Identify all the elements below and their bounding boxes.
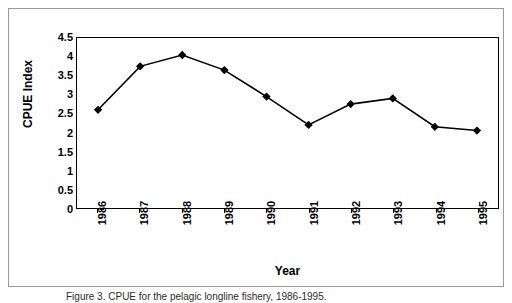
y-axis-tick-labels: 00.511.522.533.544.5 — [37, 29, 73, 217]
x-tick-label: 1995 — [478, 190, 489, 236]
x-axis-tick-labels: 1986198719881989199019911992199319941995 — [76, 213, 499, 259]
y-tick-label: 4.5 — [58, 32, 73, 43]
x-axis-title: Year — [76, 264, 499, 278]
y-tick-label: 0.5 — [58, 185, 73, 196]
x-tick-mark — [309, 209, 310, 213]
y-tick-label: 3.5 — [58, 70, 73, 81]
y-axis-title: CPUE Index — [21, 39, 35, 149]
y-tick-label: 1.5 — [58, 147, 73, 158]
x-tick-mark — [436, 209, 437, 213]
x-tick-label: 1994 — [436, 190, 447, 236]
figure-root: CPUE Index 00.511.522.533.544.5 19861987… — [0, 0, 512, 303]
figure-outer-frame: CPUE Index 00.511.522.533.544.5 19861987… — [8, 8, 504, 287]
x-tick-mark — [139, 209, 140, 213]
y-tick-label: 4 — [67, 51, 73, 62]
x-tick-label: 1986 — [97, 190, 108, 236]
x-tick-label: 1990 — [266, 190, 277, 236]
y-tick-label: 3 — [67, 89, 73, 100]
series-line — [98, 55, 477, 131]
data-point-marker — [178, 51, 186, 59]
x-tick-mark — [182, 209, 183, 213]
data-point-marker — [346, 100, 354, 108]
x-tick-mark — [224, 209, 225, 213]
x-tick-label: 1993 — [393, 190, 404, 236]
figure-caption: Figure 3. CPUE for the pelagic longline … — [66, 291, 466, 303]
x-tick-label: 1989 — [224, 190, 235, 236]
cpue-line-series — [77, 38, 498, 208]
x-tick-label: 1992 — [351, 190, 362, 236]
x-tick-mark — [351, 209, 352, 213]
data-point-marker — [473, 126, 481, 134]
data-point-marker — [220, 66, 228, 74]
plot-area — [76, 37, 499, 209]
x-tick-label: 1991 — [309, 190, 320, 236]
x-tick-mark — [266, 209, 267, 213]
x-tick-mark — [97, 209, 98, 213]
y-tick-label: 1 — [67, 166, 73, 177]
x-tick-label: 1987 — [139, 190, 150, 236]
y-tick-label: 0 — [67, 204, 73, 215]
x-tick-label: 1988 — [182, 190, 193, 236]
x-tick-mark — [393, 209, 394, 213]
x-tick-mark — [478, 209, 479, 213]
y-tick-label: 2.5 — [58, 108, 73, 119]
y-tick-label: 2 — [67, 128, 73, 139]
